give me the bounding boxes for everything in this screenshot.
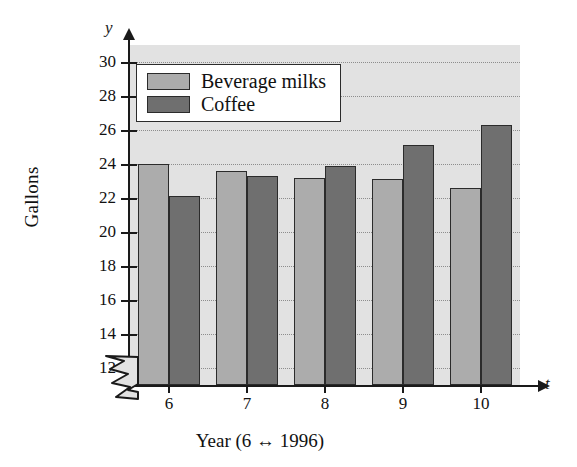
bar-coffee-9 [403, 145, 434, 385]
gridline [130, 130, 520, 131]
legend-item-coffee: Coffee [147, 94, 326, 114]
legend-label-coffee: Coffee [201, 94, 255, 114]
legend-label-beverage-milks: Beverage milks [201, 71, 326, 91]
bar-coffee-10 [481, 125, 512, 385]
x-axis-arrow-icon [538, 380, 550, 392]
y-tick-label: 30 [84, 52, 116, 72]
x-tick [402, 385, 404, 393]
y-tick-label: 18 [84, 256, 116, 276]
bar-beverage-milks-9 [372, 179, 403, 385]
x-tick-label: 6 [149, 394, 189, 414]
y-tick-label: 24 [84, 154, 116, 174]
bar-coffee-8 [325, 166, 356, 385]
y-tick [121, 62, 137, 64]
x-tick-label: 9 [383, 394, 423, 414]
legend-swatch-coffee [147, 96, 190, 113]
bar-coffee-6 [169, 196, 200, 385]
y-tick [121, 232, 137, 234]
y-tick [121, 164, 137, 166]
x-tick-label: 8 [305, 394, 345, 414]
y-axis-title: Gallons [21, 132, 43, 262]
x-axis-line [128, 385, 540, 387]
x-tick [168, 385, 170, 393]
x-tick [480, 385, 482, 393]
y-axis-letter: y [105, 18, 113, 38]
y-tick-label: 16 [84, 290, 116, 310]
legend-swatch-beverage-milks [147, 73, 190, 90]
y-axis-arrow-icon [123, 28, 135, 40]
legend-item-beverage-milks: Beverage milks [147, 71, 326, 91]
y-tick-label: 14 [84, 324, 116, 344]
y-tick [121, 96, 137, 98]
bar-chart-figure: y t Gallons Year (6 ↔ 1996) 121416182022… [0, 0, 577, 467]
y-tick-label: 22 [84, 188, 116, 208]
y-tick [121, 300, 137, 302]
bar-beverage-milks-7 [216, 171, 247, 385]
gridline [130, 62, 520, 63]
bar-beverage-milks-10 [450, 188, 481, 385]
y-tick-label: 20 [84, 222, 116, 242]
bar-beverage-milks-8 [294, 178, 325, 385]
y-tick-label: 26 [84, 120, 116, 140]
x-tick [324, 385, 326, 393]
y-tick [121, 266, 137, 268]
y-tick-label: 28 [84, 86, 116, 106]
y-tick [121, 198, 137, 200]
legend: Beverage milks Coffee [136, 64, 341, 122]
bar-coffee-7 [247, 176, 278, 385]
axis-break-icon [104, 352, 146, 400]
x-tick-label: 10 [461, 394, 501, 414]
y-tick [121, 334, 137, 336]
x-axis-title: Year (6 ↔ 1996) [0, 430, 520, 452]
y-tick [121, 130, 137, 132]
x-tick [246, 385, 248, 393]
x-tick-label: 7 [227, 394, 267, 414]
